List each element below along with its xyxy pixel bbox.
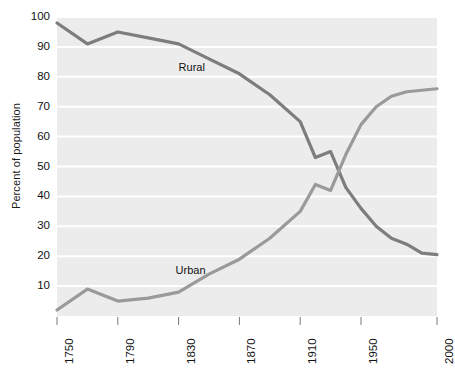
x-axis-tickmarks [57, 317, 437, 325]
x-axis-tick-label: 1870 [245, 338, 257, 364]
x-axis-tick-label: 1950 [367, 338, 379, 364]
y-axis-tick-label: 60 [16, 130, 50, 142]
y-axis-tick-label: 50 [16, 160, 50, 172]
x-axis-tick-label: 1750 [63, 338, 75, 364]
series-label-rural: Rural [179, 61, 205, 73]
x-axis-tick-label: 2000 [443, 338, 455, 364]
y-axis-tick-label: 20 [16, 249, 50, 261]
y-axis-tick-label: 90 [16, 40, 50, 52]
y-axis-tick-label: 30 [16, 219, 50, 231]
y-axis-tick-label: 80 [16, 70, 50, 82]
series-label-urban: Urban [176, 264, 206, 276]
y-axis-tick-label: 40 [16, 189, 50, 201]
x-axis-tick-label: 1830 [185, 338, 197, 364]
x-axis-tick-label: 1790 [124, 338, 136, 364]
y-axis-tick-label: 100 [16, 10, 50, 22]
y-axis-tick-label: 10 [16, 279, 50, 291]
x-axis-tick-label: 1910 [306, 338, 318, 364]
y-axis-tick-label: 70 [16, 100, 50, 112]
